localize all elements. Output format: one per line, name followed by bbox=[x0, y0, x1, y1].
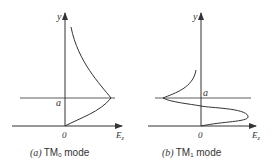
mode-diagram: y a 0 Ez (a)TM0 mode y a 0 Ez (b)TM1 mod… bbox=[0, 0, 272, 165]
panel-a-caption: (a)TM0 mode bbox=[30, 147, 90, 159]
panel-a-y-label: y bbox=[56, 11, 62, 22]
panel-b-boundary-label: a bbox=[203, 87, 208, 98]
panel-b-caption: (b)TM1 mode bbox=[162, 147, 222, 159]
panel-b-y-label: y bbox=[192, 11, 198, 22]
panel-a-x-label: Ez bbox=[115, 130, 125, 141]
panel-a-field-curve bbox=[65, 27, 111, 126]
panel-b: y a 0 Ez (b)TM1 mode bbox=[148, 11, 261, 159]
panel-b-origin-label: 0 bbox=[198, 130, 203, 140]
panel-a-boundary-label: a bbox=[56, 97, 61, 108]
panel-b-x-label: Ez bbox=[251, 130, 261, 141]
panel-a-origin-label: 0 bbox=[62, 130, 67, 140]
panel-a: y a 0 Ez (a)TM0 mode bbox=[12, 11, 125, 159]
